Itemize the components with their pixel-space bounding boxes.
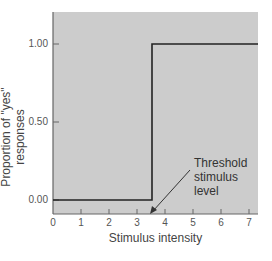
annotation-line-2: stimulus bbox=[194, 170, 247, 184]
x-tick-label: 2 bbox=[103, 217, 115, 228]
x-axis-label: Stimulus intensity bbox=[53, 231, 258, 245]
x-tick-label: 5 bbox=[187, 217, 199, 228]
x-tick-label: 0 bbox=[47, 217, 59, 228]
x-tick-label: 6 bbox=[215, 217, 227, 228]
x-tick-label: 1 bbox=[75, 217, 87, 228]
annotation-line-3: level bbox=[194, 184, 247, 198]
x-tick-label: 3 bbox=[131, 217, 143, 228]
y-tick-label: 1.00 bbox=[18, 38, 48, 49]
y-axis-label: Proportion of "yes" responses bbox=[0, 62, 27, 212]
x-tick-label: 7 bbox=[243, 217, 255, 228]
x-tick-label: 4 bbox=[159, 217, 171, 228]
threshold-annotation: Threshold stimulus level bbox=[194, 156, 247, 198]
annotation-line-1: Threshold bbox=[194, 156, 247, 170]
psychometric-step-chart: 0.00 0.50 1.00 0 1 2 3 4 5 6 7 Proportio… bbox=[0, 0, 272, 261]
